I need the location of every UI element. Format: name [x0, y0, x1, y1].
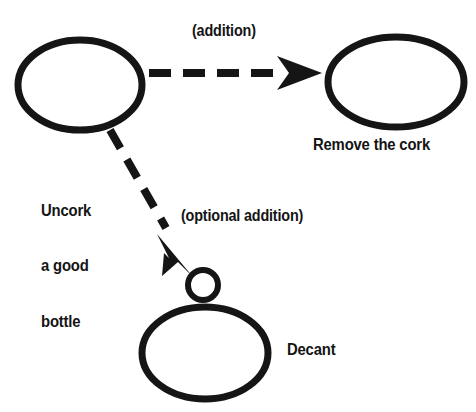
edge-label-optional-addition: (optional addition) — [181, 207, 303, 225]
edge-optional-addition-arrowhead-icon — [157, 234, 193, 277]
node-label-decant: Decant — [287, 340, 335, 358]
node-remove-the-cork-shape[interactable] — [328, 37, 464, 127]
edge-optional-addition — [110, 130, 193, 277]
edge-addition-arrowhead-icon — [277, 56, 322, 90]
node-label-uncork-line-2: a good — [41, 256, 91, 274]
node-decant-shape[interactable] — [142, 307, 268, 399]
node-optional-junction-shape[interactable] — [188, 270, 218, 300]
edge-label-addition: (addition) — [192, 22, 256, 40]
node-label-uncork-line-1: Uncork — [41, 201, 91, 219]
node-label-uncork-line-3: bottle — [41, 312, 91, 330]
node-uncork-shape[interactable] — [18, 40, 142, 130]
node-label-uncork: Uncork a good bottle — [41, 164, 91, 367]
diagram-canvas-root: (addition) (optional addition) Remove th… — [0, 0, 476, 412]
edge-addition — [149, 56, 322, 90]
edge-optional-addition-line — [110, 130, 166, 228]
node-label-remove-the-cork: Remove the cork — [313, 135, 430, 153]
